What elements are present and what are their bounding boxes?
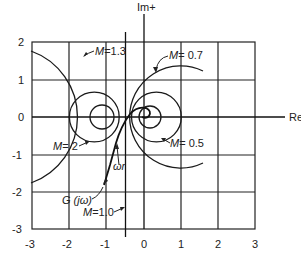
nyquist-m-circle-diagram: Im+ Re+ 2 1 0 -1 -2 -3 -3 -2 -1 0 1 2 3 … [0,0,301,264]
y-tick-1: 1 [18,74,24,86]
m-1-3-arrow-icon [83,52,88,57]
x-tick-0: 0 [141,238,147,250]
m-1-0-arrow-icon [120,207,125,211]
re-axis-label: Re+ [289,111,301,123]
label-g-jw: G (jω) [62,187,103,206]
x-tick-neg2: -2 [62,238,72,250]
g-jw-text: G (jω) [62,194,92,206]
im-axis-label: Im+ [137,1,156,13]
g-jw-curve [104,108,150,185]
label-m-2: M= 2 [53,140,90,152]
x-tick-1: 1 [178,238,184,250]
y-tick-neg1: -1 [12,149,22,161]
svg-text:M= 0.5: M= 0.5 [170,137,204,149]
g-jw-pointer [92,187,103,199]
svg-text:M= 0.7: M= 0.7 [169,49,203,61]
x-tick-3: 3 [252,238,258,250]
svg-text:M=1.0: M=1.0 [83,206,114,218]
svg-text:M= 2: M= 2 [53,140,78,152]
y-tick-neg2: -2 [12,186,22,198]
m-2-arrow-icon [85,141,90,145]
omega-r-text: ωr [113,160,127,172]
label-m-1-3: M=1.3 [83,45,126,57]
x-tick-2: 2 [215,238,221,250]
y-tick-neg3: -3 [12,223,22,235]
svg-text:M=1.3: M=1.3 [95,45,126,57]
y-tick-0: 0 [18,111,24,123]
x-tick-neg3: -3 [25,238,35,250]
label-m-1-0: M=1.0 [83,206,125,218]
y-tick-2: 2 [18,36,24,48]
x-tick-neg1: -1 [100,238,110,250]
